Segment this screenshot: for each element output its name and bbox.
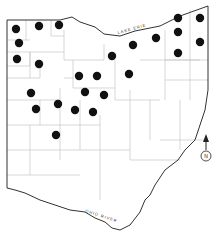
location-dot: [196, 14, 204, 22]
location-dot: [129, 41, 137, 49]
location-dot: [100, 91, 108, 99]
location-dot: [174, 49, 182, 57]
north-arrow-icon: N: [201, 134, 211, 161]
location-dot: [12, 25, 20, 33]
location-dot: [13, 55, 21, 63]
location-dot: [108, 52, 116, 60]
location-dot: [152, 34, 160, 42]
location-dot: [27, 89, 35, 97]
location-dot: [125, 70, 133, 78]
location-dots: [12, 14, 204, 139]
location-dot: [196, 38, 204, 46]
location-dot: [52, 131, 60, 139]
lake-erie-label: LAKE ERIE: [117, 22, 147, 35]
location-dot: [81, 88, 89, 96]
location-dot: [35, 22, 43, 30]
location-dot: [89, 108, 97, 116]
location-dot: [93, 72, 101, 80]
location-dot: [71, 106, 79, 114]
location-dot: [55, 21, 63, 29]
location-dot: [75, 72, 83, 80]
location-dot: [54, 100, 62, 108]
location-dot: [15, 39, 23, 47]
location-dot: [32, 105, 40, 113]
location-dot: [174, 14, 182, 22]
north-badge-label: N: [204, 153, 208, 159]
location-dot: [174, 28, 182, 36]
ohio-county-map: LAKE ERIE OHIO RIVER N: [0, 0, 214, 234]
state-border: [7, 6, 208, 230]
location-dot: [35, 60, 43, 68]
